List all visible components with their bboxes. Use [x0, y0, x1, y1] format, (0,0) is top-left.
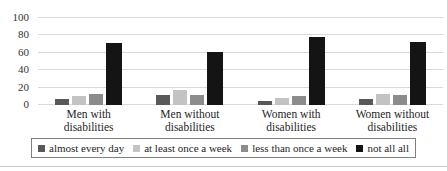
bar — [173, 90, 187, 105]
bar — [72, 96, 86, 105]
legend-marker-icon — [356, 145, 363, 152]
bottom-rule — [0, 166, 447, 167]
bar-group — [342, 18, 443, 105]
legend-marker-icon — [241, 145, 248, 152]
x-axis-labels: Men with disabilitiesMen without disabil… — [38, 108, 443, 134]
bar — [156, 95, 170, 105]
bar-group — [139, 18, 240, 105]
legend-item-label: less than once a week — [252, 142, 347, 154]
y-axis-tick-label: 60 — [18, 46, 29, 59]
bar — [275, 98, 289, 105]
y-axis-tick-label: 20 — [18, 81, 29, 94]
bar — [55, 99, 69, 105]
bar — [410, 42, 426, 105]
y-axis: 020406080100 — [0, 18, 32, 105]
y-axis-tick-label: 40 — [18, 63, 29, 76]
x-axis-category-label: Women without disabilities — [342, 108, 443, 134]
legend: almost every dayat least once a weekless… — [31, 138, 416, 158]
bar-group — [241, 18, 342, 105]
y-axis-tick-label: 100 — [13, 11, 30, 24]
legend-item-label: at least once a week — [144, 142, 232, 154]
legend-item: at least once a week — [133, 142, 232, 154]
x-axis-category-label: Men with disabilities — [38, 108, 139, 134]
bar — [309, 37, 325, 105]
bar — [190, 95, 204, 105]
bar-group — [38, 18, 139, 105]
legend-marker-icon — [133, 145, 140, 152]
bar-chart-figure: 020406080100 Men with disabilitiesMen wi… — [0, 0, 447, 171]
bar — [106, 43, 122, 105]
legend-item: not all all — [356, 142, 409, 154]
bar — [376, 94, 390, 105]
bar — [359, 99, 373, 105]
legend-row: almost every dayat least once a weekless… — [0, 138, 447, 158]
legend-item-label: not all all — [367, 142, 409, 154]
bar-groups — [38, 18, 443, 105]
legend-item: almost every day — [38, 142, 124, 154]
legend-marker-icon — [38, 145, 45, 152]
bar — [292, 96, 306, 105]
x-axis-category-label: Men without disabilities — [139, 108, 240, 134]
legend-item-label: almost every day — [49, 142, 124, 154]
plot-area — [38, 18, 443, 105]
bar — [393, 95, 407, 105]
bar — [207, 52, 223, 105]
y-axis-tick-label: 0 — [24, 98, 30, 111]
bar — [258, 101, 272, 105]
bar — [89, 94, 103, 105]
x-axis-category-label: Women with disabilities — [241, 108, 342, 134]
y-axis-tick-label: 80 — [18, 28, 29, 41]
legend-item: less than once a week — [241, 142, 347, 154]
